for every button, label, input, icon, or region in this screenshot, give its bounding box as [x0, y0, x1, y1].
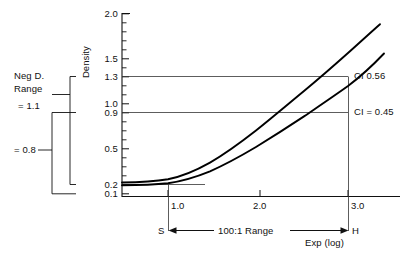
plot-frame	[122, 13, 400, 197]
x-axis-title: Exp (log)	[305, 237, 344, 248]
y-tick-label-2-0: 2.0	[88, 8, 118, 19]
chart-figure: 2.0 1.5 1.3 1.0 0.9 0.5 0.2 0.1 Density …	[0, 0, 419, 257]
y-tick-label-0-1: 0.1	[88, 188, 118, 199]
x-ticks	[168, 190, 348, 196]
neg-density-range-value-upper: = 1.1	[18, 100, 40, 111]
x-tick-label-1-0: 1.0	[171, 200, 185, 211]
bracket-range-0-8	[52, 113, 76, 194]
y-tick-label-0-5: 0.5	[88, 143, 118, 154]
horizontal-reference-lines	[122, 77, 348, 185]
chart-canvas	[0, 0, 419, 257]
y-minor-ticks	[122, 23, 127, 176]
neg-density-range-value-lower: = 0.8	[14, 144, 36, 155]
y-tick-label-0-9: 0.9	[88, 107, 118, 118]
series-label-ci-056: CI 0.56	[354, 70, 385, 81]
exposure-range-label: 100:1 Range	[218, 225, 274, 236]
neg-density-range-title-line1: Neg D.	[14, 70, 44, 81]
series-label-ci-045: CI = 0.45	[354, 106, 394, 117]
neg-density-range-title-line2: Range	[14, 83, 43, 94]
curve-ci-045	[122, 54, 384, 186]
curve-ci-056	[122, 24, 380, 182]
neg-density-range-brackets	[38, 77, 76, 194]
y-axis-title: Density	[80, 46, 91, 78]
y-tick-label-1-5: 1.5	[88, 53, 118, 64]
x-tick-label-2-0: 2.0	[253, 200, 267, 211]
range-start-marker-s: S	[158, 225, 164, 236]
y-tick-label-1-3: 1.3	[88, 71, 118, 82]
bracket-range-1-1	[70, 77, 76, 185]
range-end-marker-h: H	[352, 225, 359, 236]
x-tick-label-3-0: 3.0	[351, 200, 365, 211]
